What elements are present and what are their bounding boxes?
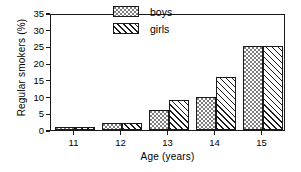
y-tick-label: 30 xyxy=(33,25,44,36)
y-tick-label: 5 xyxy=(39,108,44,119)
bar-boys-age-14 xyxy=(196,97,216,130)
bar-girls-age-15 xyxy=(263,46,283,130)
bar-girls-age-14 xyxy=(216,77,236,130)
legend-swatch-girls xyxy=(113,23,139,34)
bar-boys-age-12 xyxy=(102,123,122,130)
chart-legend: boysgirls xyxy=(113,4,205,38)
y-tick-label: 10 xyxy=(33,92,44,103)
x-tick-label: 11 xyxy=(60,137,88,148)
legend-item-boys: boys xyxy=(113,4,205,19)
y-axis-title: Regular smokers (%) xyxy=(16,3,27,133)
y-tick-label: 20 xyxy=(33,58,44,69)
y-tick-label: 35 xyxy=(33,8,44,19)
bar-boys-age-15 xyxy=(243,46,263,130)
y-tick-label: 0 xyxy=(39,125,44,136)
x-tick-label: 15 xyxy=(248,137,276,148)
x-tick-label: 13 xyxy=(154,137,182,148)
bar-boys-age-11 xyxy=(55,127,75,130)
x-axis-title: Age (years) xyxy=(50,151,285,162)
legend-label: girls xyxy=(150,23,169,35)
x-tick-mark xyxy=(120,131,121,135)
legend-label: boys xyxy=(150,6,172,18)
bar-boys-age-13 xyxy=(149,110,169,130)
bar-chart: Regular smokers (%) 05101520253035111213… xyxy=(0,0,301,172)
legend-swatch-boys xyxy=(113,6,139,17)
x-tick-mark xyxy=(261,131,262,135)
x-tick-label: 14 xyxy=(201,137,229,148)
y-tick-label: 25 xyxy=(33,41,44,52)
y-tick-label: 15 xyxy=(33,75,44,86)
legend-item-girls: girls xyxy=(113,21,205,36)
x-tick-label: 12 xyxy=(107,137,135,148)
bar-girls-age-12 xyxy=(122,123,142,130)
x-tick-mark xyxy=(214,131,215,135)
bar-girls-age-13 xyxy=(169,100,189,130)
bar-girls-age-11 xyxy=(75,127,95,130)
x-tick-mark xyxy=(73,131,74,135)
x-tick-mark xyxy=(167,131,168,135)
